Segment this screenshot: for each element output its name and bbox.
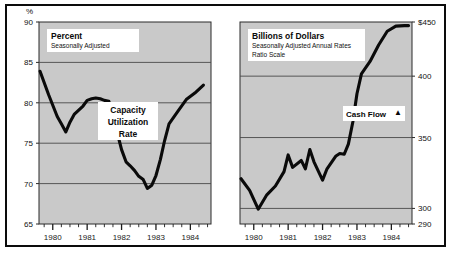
x-tick-label: 1982 [113, 233, 131, 242]
x-tick-label: 1984 [382, 233, 400, 242]
capacity-label-line: Rate [119, 129, 138, 139]
x-tick-label: 1982 [314, 233, 332, 242]
x-tick-label: 1980 [245, 233, 263, 242]
y-tick-label: 90 [24, 18, 33, 27]
chart-panel-cash-flow: 290300350400$45019801981198219831984Bill… [226, 0, 453, 266]
right-chart-title: Billions of Dollars [252, 31, 325, 41]
y-tick-label: 70 [24, 180, 33, 189]
x-tick-label: 1980 [44, 233, 62, 242]
right-chart-subtitle-2: Ratio Scale [252, 51, 286, 58]
y-tick-label: $450 [418, 18, 436, 27]
axis-unit-label: % [26, 7, 33, 16]
chart-panel-capacity-utilization: 657075808590%19801981198219831984Percent… [0, 0, 226, 266]
capacity-label-line: Utilization [108, 117, 149, 127]
y-tick-label: 65 [24, 220, 33, 229]
x-tick-label: 1984 [181, 233, 199, 242]
capacity-utilization-chart: 657075808590%19801981198219831984Percent… [0, 0, 226, 266]
left-chart-title: Percent [51, 31, 82, 41]
x-tick-label: 1983 [348, 233, 366, 242]
y-tick-label: 300 [418, 204, 432, 213]
y-tick-label: 400 [418, 72, 432, 81]
left-chart-subtitle: Seasonally Adjusted [51, 42, 110, 50]
x-tick-label: 1983 [147, 233, 165, 242]
right-chart-subtitle: Seasonally Adjusted Annual Rates [252, 42, 352, 50]
y-tick-label: 350 [418, 134, 432, 143]
y-tick-label: 290 [418, 220, 432, 229]
cashflow-series-label: Cash Flow [346, 110, 387, 119]
figure-root: 657075808590%19801981198219831984Percent… [0, 0, 453, 266]
x-tick-label: 1981 [279, 233, 297, 242]
cash-flow-chart: 290300350400$45019801981198219831984Bill… [226, 0, 453, 266]
y-tick-label: 85 [24, 58, 33, 67]
cashflow-marker-icon: ▲ [394, 108, 402, 117]
capacity-label-line: Capacity [110, 105, 146, 115]
y-tick-label: 75 [24, 139, 33, 148]
x-tick-label: 1981 [78, 233, 96, 242]
y-tick-label: 80 [24, 99, 33, 108]
